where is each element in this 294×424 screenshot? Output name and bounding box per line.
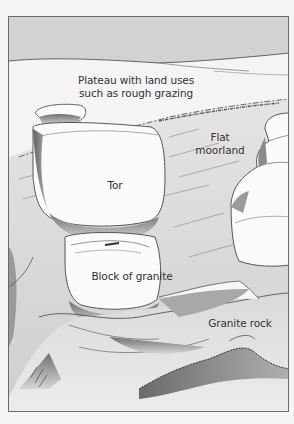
granite-rock-label: Granite rock: [195, 317, 285, 330]
plateau-label-line2: such as rough grazing: [46, 87, 226, 100]
moorland-label-line1: Flat: [185, 131, 255, 144]
plateau-label-line1: Plateau with land uses: [46, 74, 226, 87]
granite-block-label: Block of granite: [77, 270, 187, 283]
plateau-label: Plateau with land uses such as rough gra…: [46, 74, 226, 100]
moorland-label: Flat moorland: [185, 131, 255, 157]
tor-block: [33, 123, 165, 227]
tor-landscape-illustration: Plateau with land uses such as rough gra…: [8, 16, 289, 412]
tor-label: Tor: [95, 179, 135, 192]
moorland-label-line2: moorland: [185, 144, 255, 157]
